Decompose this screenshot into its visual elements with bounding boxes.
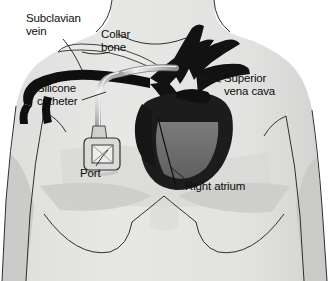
label-silicone-catheter: Silicone catheter xyxy=(37,82,77,107)
label-subclavian-vein: Subclavian vein xyxy=(26,12,81,37)
label-right-atrium: Right atrium xyxy=(185,180,245,193)
label-collar-bone: Collar bone xyxy=(101,28,130,53)
label-superior-vena-cava: Superior vena cava xyxy=(224,72,275,97)
illustration-canvas: Subclavian vein Collar bone Silicone cat… xyxy=(0,0,329,281)
label-port: Port xyxy=(80,167,101,180)
anatomy-illustration xyxy=(0,0,329,281)
